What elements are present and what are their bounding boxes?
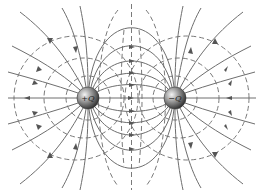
- negative-charge-label: −Q: [168, 94, 182, 103]
- positive-charge-label: +Q: [81, 94, 95, 103]
- field-lines-figure: +Q −Q: [0, 0, 264, 192]
- negative-charge: −Q: [164, 87, 186, 109]
- positive-charge: +Q: [77, 87, 99, 109]
- equipotential-lines: [14, 4, 249, 190]
- dipole-diagram: +Q −Q: [0, 0, 264, 192]
